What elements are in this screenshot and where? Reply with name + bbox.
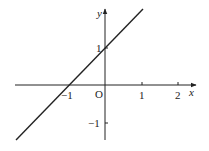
x-tick-label-neg1: −1 bbox=[61, 89, 73, 101]
y-tick-label-neg1: −1 bbox=[88, 117, 100, 129]
function-line bbox=[16, 9, 143, 140]
y-axis-label: y bbox=[96, 7, 102, 19]
x-tick-label-2: 2 bbox=[175, 89, 181, 101]
coordinate-plane: y x O −1 1 2 1 −1 bbox=[0, 0, 209, 151]
origin-label: O bbox=[95, 88, 103, 100]
y-tick-label-1: 1 bbox=[96, 42, 102, 54]
x-axis-label: x bbox=[188, 86, 194, 98]
x-tick-label-1: 1 bbox=[139, 89, 145, 101]
